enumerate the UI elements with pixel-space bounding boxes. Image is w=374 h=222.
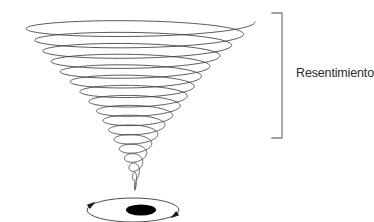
annotation-bracket-group [272, 13, 282, 138]
black-core-dot [126, 205, 156, 216]
range-bracket [272, 13, 282, 138]
bottom-ring-group [87, 198, 179, 222]
spiral-path [26, 21, 255, 190]
spiral-coils-group [26, 21, 255, 190]
